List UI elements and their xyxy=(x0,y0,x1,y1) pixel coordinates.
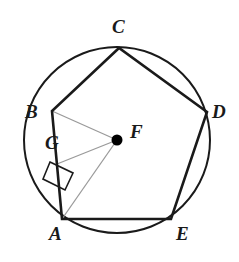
center-label-f: F xyxy=(130,122,143,141)
vertex-label-e: E xyxy=(176,224,189,243)
vertex-label-a: A xyxy=(49,224,62,243)
center-point-F-dot xyxy=(112,135,123,146)
foot-label-g: G xyxy=(45,133,59,152)
vertex-label-d: D xyxy=(212,102,226,121)
vertex-label-b: B xyxy=(25,102,38,121)
geometry-figure: A B C D E F G xyxy=(0,0,239,262)
vertex-label-c: C xyxy=(112,17,125,36)
geometry-canvas xyxy=(0,0,239,262)
radius-FB-segment xyxy=(52,111,117,140)
